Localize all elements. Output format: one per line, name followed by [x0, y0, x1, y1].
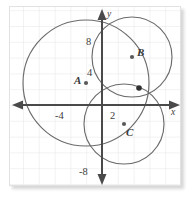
circle-label-b: B — [137, 47, 144, 58]
x-axis-name-label: x — [171, 108, 175, 118]
y-tick-label-8: 8 — [86, 37, 91, 48]
x-tick-label-minus-4: -4 — [55, 111, 64, 122]
x-tick-label-2: 2 — [110, 111, 115, 122]
circle-diagram-figure: 8 4 -8 -4 2 x y A B C — [0, 0, 193, 199]
y-axis-name-label: y — [107, 10, 111, 20]
intersection-point-marker — [136, 85, 142, 91]
center-marker-a — [84, 81, 88, 85]
y-tick-label-4: 4 — [87, 68, 92, 79]
center-marker-b — [130, 55, 134, 59]
circle-label-a: A — [74, 75, 81, 86]
coordinate-plane — [0, 0, 193, 199]
y-tick-label-minus-8: -8 — [79, 167, 88, 178]
circle-label-c: C — [126, 127, 133, 138]
